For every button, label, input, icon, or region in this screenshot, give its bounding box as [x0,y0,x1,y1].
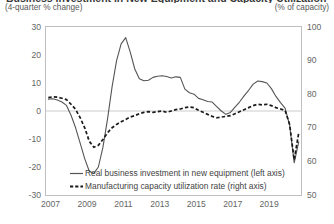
legend-label-real-business-investment: Real business investment in new equipmen… [85,169,285,178]
left-axis-unit-label: (4-quarter % change) [5,3,82,12]
legend-item-real-business-investment: Real business investment in new equipmen… [70,169,285,178]
y-axis-right-tick-0: 100 [307,23,334,32]
y-axis-right-tick-1: 90 [307,56,334,65]
y-axis-left-tick-4: -10 [5,135,41,144]
y-axis-left-tick-3: 0 [5,107,41,116]
x-axis-tick-6: 2019 [249,200,289,209]
x-axis-tick-1: 2009 [67,200,107,209]
x-axis-tick-5: 2017 [213,200,253,209]
legend-item-capacity-utilization: Manufacturing capacity utilization rate … [70,182,267,191]
x-axis-tick-3: 2013 [140,200,180,209]
legend-label-capacity-utilization: Manufacturing capacity utilization rate … [85,182,267,191]
legend-swatch-dashed-icon [70,183,83,190]
right-axis-unit-label: (% of capacity) [275,3,329,12]
y-axis-right-tick-4: 60 [307,157,334,166]
y-axis-left-tick-0: 30 [5,23,41,32]
y-axis-right-tick-2: 80 [307,90,334,99]
y-axis-right-tick-3: 70 [307,123,334,132]
series-line-capacity-utilization [48,97,298,160]
chart-figure: Business Investment in New Equipment and… [0,0,334,224]
x-axis-tick-4: 2015 [176,200,216,209]
y-axis-left-tick-6: -30 [5,191,41,200]
legend-swatch-solid-icon [70,170,83,177]
y-axis-left-tick-2: 10 [5,79,41,88]
y-axis-left-tick-5: -20 [5,163,41,172]
y-axis-right-tick-5: 50 [307,191,334,200]
y-axis-left-tick-1: 20 [5,51,41,60]
x-axis-tick-0: 2007 [31,200,71,209]
x-axis-tick-2: 2011 [103,200,143,209]
